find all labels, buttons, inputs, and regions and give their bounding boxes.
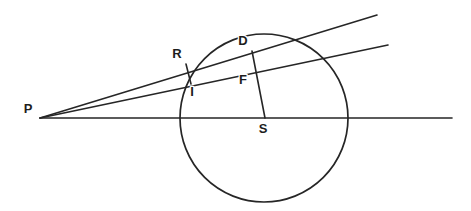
segment-D-S <box>252 51 265 118</box>
geometry-canvas: P R I D F S <box>0 0 471 211</box>
geometry-diagram: P R I D F S <box>0 0 471 211</box>
lower-secant-ray <box>40 45 388 118</box>
point-label-D: D <box>238 33 247 48</box>
upper-secant-ray <box>40 15 377 118</box>
point-label-F: F <box>239 72 247 87</box>
point-label-S: S <box>259 121 268 136</box>
point-label-P: P <box>24 101 33 116</box>
point-label-I: I <box>190 84 194 99</box>
point-label-R: R <box>172 46 182 61</box>
